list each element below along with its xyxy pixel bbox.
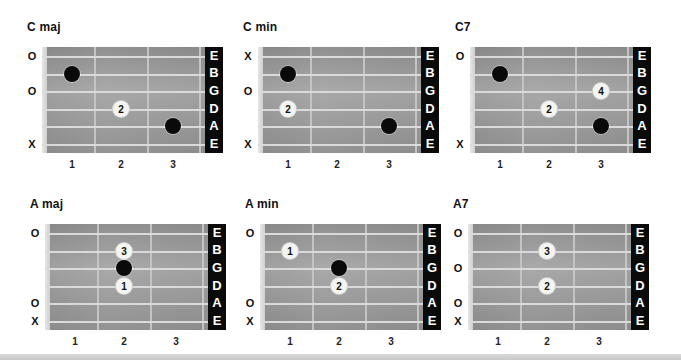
string-line bbox=[468, 233, 631, 235]
string-line bbox=[42, 91, 205, 93]
string-name-label: E bbox=[213, 314, 222, 328]
string-name-column: EBGDAE bbox=[205, 47, 223, 153]
string-name-label: E bbox=[636, 226, 645, 240]
string-line bbox=[468, 303, 631, 305]
chord-diagram-a7: A732OOOXEBGDAE123 bbox=[453, 197, 668, 360]
chord-diagram-c-maj: C maj2OOXEBGDAE123 bbox=[27, 20, 242, 190]
fret-line bbox=[150, 224, 152, 330]
chord-diagram-c-min: C min2XOXEBGDAE123 bbox=[243, 20, 458, 190]
fret-number: 2 bbox=[117, 336, 131, 347]
string-name-label: E bbox=[638, 137, 647, 151]
fret-number: 3 bbox=[384, 336, 398, 347]
finger-dot: 4 bbox=[593, 83, 609, 99]
finger-dot-root bbox=[116, 260, 132, 276]
open-string-marker: O bbox=[26, 86, 38, 97]
chord-title: C min bbox=[243, 20, 277, 34]
string-line bbox=[470, 56, 633, 58]
string-name-label: A bbox=[212, 296, 221, 310]
string-name-column: EBGDAE bbox=[633, 47, 651, 153]
fret-number: 1 bbox=[68, 336, 82, 347]
string-name-label: E bbox=[428, 226, 437, 240]
string-line bbox=[258, 144, 421, 146]
fret-number: 3 bbox=[382, 159, 396, 170]
string-line bbox=[42, 56, 205, 58]
string-name-label: E bbox=[426, 137, 435, 151]
muted-string-marker: X bbox=[242, 139, 254, 150]
string-name-label: D bbox=[209, 102, 218, 116]
fret-line bbox=[575, 47, 577, 153]
fret-line bbox=[417, 224, 419, 330]
fret-number: 2 bbox=[542, 159, 556, 170]
fret-line bbox=[365, 224, 367, 330]
string-name-label: A bbox=[427, 296, 436, 310]
finger-dot: 2 bbox=[541, 101, 557, 117]
fret-number: 1 bbox=[283, 336, 297, 347]
string-line bbox=[258, 56, 421, 58]
fret-number: 2 bbox=[330, 159, 344, 170]
nut bbox=[468, 224, 473, 330]
string-name-label: D bbox=[635, 279, 644, 293]
chord-title: C7 bbox=[455, 20, 471, 34]
fret-number: 1 bbox=[491, 336, 505, 347]
fret-line bbox=[627, 47, 629, 153]
string-line bbox=[45, 233, 208, 235]
finger-dot-root bbox=[593, 118, 609, 134]
string-name-label: E bbox=[210, 49, 219, 63]
string-line bbox=[45, 303, 208, 305]
finger-dot-root bbox=[492, 66, 508, 82]
string-name-column: EBGDAE bbox=[423, 224, 441, 330]
string-name-label: D bbox=[425, 102, 434, 116]
open-string-marker: O bbox=[26, 51, 38, 62]
muted-string-marker: X bbox=[242, 51, 254, 62]
fret-line bbox=[363, 47, 365, 153]
finger-dot-root bbox=[64, 66, 80, 82]
chord-diagram-c7: C742OXEBGDAE123 bbox=[455, 20, 670, 190]
fret-number: 3 bbox=[169, 336, 183, 347]
page-edge-band bbox=[0, 354, 681, 360]
fretboard bbox=[468, 224, 631, 330]
finger-dot: 3 bbox=[116, 243, 132, 259]
nut bbox=[45, 224, 50, 330]
muted-string-marker: X bbox=[452, 316, 464, 327]
open-string-marker: O bbox=[452, 263, 464, 274]
string-name-label: E bbox=[638, 49, 647, 63]
fret-line bbox=[522, 47, 524, 153]
open-string-marker: O bbox=[452, 228, 464, 239]
string-name-label: G bbox=[637, 84, 647, 98]
string-name-label: A bbox=[637, 119, 646, 133]
muted-string-marker: X bbox=[26, 139, 38, 150]
string-line bbox=[42, 144, 205, 146]
fretboard bbox=[258, 47, 421, 153]
muted-string-marker: X bbox=[29, 316, 41, 327]
chord-title: C maj bbox=[27, 20, 61, 34]
fret-number: 3 bbox=[166, 159, 180, 170]
open-string-marker: O bbox=[452, 298, 464, 309]
string-name-label: G bbox=[425, 84, 435, 98]
string-name-label: D bbox=[212, 279, 221, 293]
string-name-label: A bbox=[635, 296, 644, 310]
fret-line bbox=[199, 47, 201, 153]
string-name-label: D bbox=[637, 102, 646, 116]
string-line bbox=[260, 233, 423, 235]
fret-line bbox=[312, 224, 314, 330]
string-line bbox=[260, 321, 423, 323]
open-string-marker: O bbox=[242, 86, 254, 97]
fret-line bbox=[147, 47, 149, 153]
fret-line bbox=[625, 224, 627, 330]
open-string-marker: O bbox=[244, 298, 256, 309]
finger-dot: 2 bbox=[113, 101, 129, 117]
string-name-label: E bbox=[636, 314, 645, 328]
fret-line bbox=[310, 47, 312, 153]
fretboard bbox=[45, 224, 208, 330]
string-name-label: E bbox=[428, 314, 437, 328]
string-name-label: E bbox=[210, 137, 219, 151]
open-string-marker: O bbox=[454, 51, 466, 62]
fret-line bbox=[573, 224, 575, 330]
finger-dot: 2 bbox=[331, 278, 347, 294]
string-name-label: G bbox=[427, 261, 437, 275]
chord-diagram-a-min: A min12OOXEBGDAE123 bbox=[245, 197, 460, 360]
string-name-label: A bbox=[425, 119, 434, 133]
string-name-label: E bbox=[213, 226, 222, 240]
chord-title: A maj bbox=[30, 197, 63, 211]
nut bbox=[258, 47, 263, 153]
